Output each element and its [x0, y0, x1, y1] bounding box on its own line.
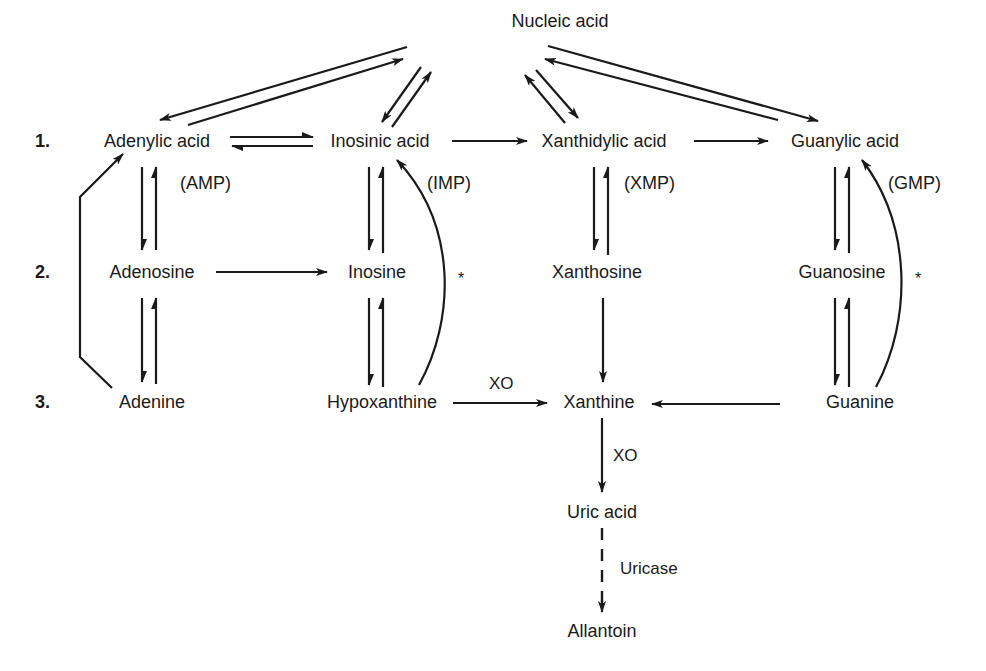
node-nucleic-acid: Nucleic acid	[511, 11, 608, 31]
node-uric-acid: Uric acid	[567, 502, 637, 522]
edge-guanylic-guanosine	[835, 167, 849, 253]
marker-gmp-salvage: *	[915, 270, 921, 287]
enzyme-xo-hypoxanthine: XO	[489, 374, 514, 393]
node-inosine: Inosine	[348, 262, 406, 282]
enzyme-uricase: Uricase	[620, 559, 678, 578]
purine-pathway-diagram: 1. 2. 3. Nucleic acid Adenylic acid Inos…	[0, 0, 986, 671]
edge-inosine-hypoxanthine	[369, 298, 383, 387]
edge-nucleic-inosinic	[382, 67, 431, 127]
node-adenine: Adenine	[119, 392, 185, 412]
edge-adenylic-adenosine	[142, 167, 156, 250]
abbr-amp: (AMP)	[180, 173, 231, 193]
edge-nucleic-xanthidylic	[525, 70, 578, 123]
edge-guanosine-guanine	[835, 298, 849, 387]
node-xanthine: Xanthine	[563, 392, 634, 412]
node-guanosine: Guanosine	[798, 262, 885, 282]
node-inosinic-acid: Inosinic acid	[330, 131, 429, 151]
edge-inosinic-inosine	[369, 167, 383, 253]
row-label-3: 3.	[35, 392, 50, 412]
abbr-gmp: (GMP)	[888, 173, 941, 193]
node-allantoin: Allantoin	[567, 621, 636, 641]
node-xanthidylic-acid: Xanthidylic acid	[541, 131, 666, 151]
node-guanylic-acid: Guanylic acid	[791, 131, 899, 151]
edge-xanthidylic-xanthosine	[594, 167, 608, 255]
marker-imp-salvage: *	[458, 270, 464, 287]
abbr-xmp: (XMP)	[624, 173, 675, 193]
edge-nucleic-adenylic	[160, 47, 407, 125]
node-xanthosine: Xanthosine	[552, 262, 642, 282]
row-label-1: 1.	[35, 131, 50, 151]
edge-adenylic-inosinic	[230, 137, 313, 146]
enzyme-xo-xanthine: XO	[613, 446, 638, 465]
edge-nucleic-guanylic	[545, 46, 818, 121]
node-hypoxanthine: Hypoxanthine	[327, 392, 437, 412]
node-adenylic-acid: Adenylic acid	[104, 131, 210, 151]
abbr-imp: (IMP)	[427, 173, 471, 193]
edge-adenosine-adenine	[142, 298, 156, 384]
node-adenosine: Adenosine	[109, 262, 194, 282]
row-label-2: 2.	[35, 262, 50, 282]
node-guanine: Guanine	[826, 392, 894, 412]
